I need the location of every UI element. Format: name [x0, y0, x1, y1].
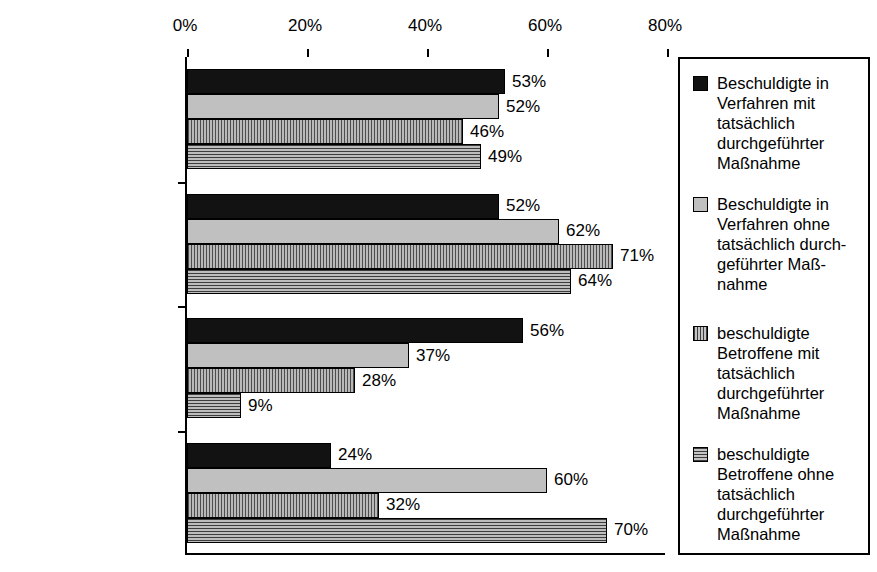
legend-label: Beschuldigte in Verfahren ohne tatsächli… [717, 194, 846, 294]
bar-value-label: 37% [413, 346, 450, 366]
legend-label: beschuldigte Betroffene ohne tatsächlich… [717, 444, 834, 544]
plot-area: 53%52%46%49%52%62%71%64%56%37%28%9%24%60… [185, 57, 665, 555]
legend-item[interactable]: beschuldigte Betroffene mit tatsächlich … [693, 323, 865, 423]
bar [187, 318, 523, 343]
x-axis-tick-label: 0% [173, 16, 198, 36]
bar-value-label: 70% [611, 520, 648, 540]
bar-value-label: 64% [575, 271, 612, 291]
bar-value-label: 28% [359, 371, 396, 391]
bar-value-label: 71% [617, 246, 654, 266]
y-axis-tick-mark [178, 182, 187, 184]
bar [187, 493, 379, 518]
legend-item[interactable]: beschuldigte Betroffene ohne tatsächlich… [693, 444, 865, 544]
bar [187, 244, 613, 269]
bar [187, 144, 481, 169]
bar-value-label: 52% [503, 196, 540, 216]
x-axis-tick-label: 60% [528, 16, 562, 36]
bar-value-label: 62% [563, 221, 600, 241]
bar [187, 443, 331, 468]
bar [187, 518, 607, 543]
bar [187, 269, 571, 294]
bar [187, 468, 547, 493]
legend-label: Beschuldigte in Verfahren mit tatsächlic… [717, 73, 829, 173]
x-axis-tick-label: 40% [408, 16, 442, 36]
legend-swatch-icon [693, 197, 708, 212]
legend-swatch-icon [693, 76, 708, 91]
bar [187, 194, 499, 219]
x-axis-tick-mark [307, 49, 309, 57]
x-axis-tick-mark [667, 49, 669, 57]
bar [187, 343, 409, 368]
x-axis-tick-label: 80% [648, 16, 682, 36]
x-axis-tick-label: 20% [288, 16, 322, 36]
bar-value-label: 56% [527, 321, 564, 341]
bar [187, 119, 463, 144]
legend-item[interactable]: Beschuldigte in Verfahren mit tatsächlic… [693, 73, 865, 173]
bar-value-label: 24% [335, 445, 372, 465]
x-axis-tick-mark [427, 49, 429, 57]
bar-value-label: 60% [551, 470, 588, 490]
y-axis-tick-mark [178, 431, 187, 433]
bar-value-label: 9% [245, 396, 273, 416]
legend-label: beschuldigte Betroffene mit tatsächlich … [717, 323, 824, 423]
x-axis-tick-mark [187, 49, 189, 57]
bar-chart: 0%20%40%60%80% 53%52%46%49%52%62%71%64%5… [0, 0, 877, 572]
bar-value-label: 53% [509, 72, 546, 92]
bar [187, 94, 499, 119]
bar-value-label: 52% [503, 97, 540, 117]
bar [187, 219, 559, 244]
legend-item[interactable]: Beschuldigte in Verfahren ohne tatsächli… [693, 194, 865, 294]
chart-legend: Beschuldigte in Verfahren mit tatsächlic… [678, 57, 870, 555]
x-axis-tick-labels: 0%20%40%60%80% [0, 16, 877, 38]
y-axis-tick-mark [178, 306, 187, 308]
legend-swatch-icon [693, 326, 708, 341]
x-axis-tick-mark [547, 49, 549, 57]
legend-swatch-icon [693, 447, 708, 462]
bar [187, 393, 241, 418]
bar-value-label: 49% [485, 147, 522, 167]
bar-value-label: 46% [467, 122, 504, 142]
bar [187, 368, 355, 393]
bar [187, 69, 505, 94]
bar-value-label: 32% [383, 495, 420, 515]
